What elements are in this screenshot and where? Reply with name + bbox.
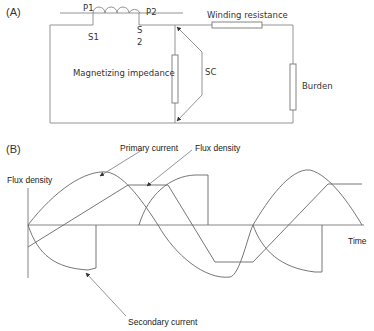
secondary-current-curve xyxy=(28,225,96,270)
sc-arrow-bottom-icon xyxy=(177,70,202,121)
sc-label: SC xyxy=(205,67,216,77)
flux-density-curve xyxy=(28,184,362,262)
winding-resistance-label: Winding resistance xyxy=(207,10,288,20)
secondary-current-leader-icon xyxy=(86,273,126,316)
burden-label: Burden xyxy=(302,81,333,91)
y-axis-label: Flux density xyxy=(7,175,53,185)
sc-arrow-top-icon xyxy=(177,27,202,70)
secondary-current-label: Secondary current xyxy=(128,317,198,327)
primary-coil-icon xyxy=(93,7,140,13)
burden-resistor-icon xyxy=(290,64,296,110)
x-axis-label: Time xyxy=(348,236,367,246)
panel-a-label: (A) xyxy=(6,6,21,18)
magnetizing-impedance-resistor-icon xyxy=(172,55,178,103)
terminal-s2-bottom: 2 xyxy=(137,37,142,47)
panel-a-circuit: (A) P1 P2 S1 S 2 Magnetizing impedance S… xyxy=(6,3,333,123)
primary-current-label: Primary current xyxy=(120,143,179,153)
terminal-p2: P2 xyxy=(146,7,157,17)
secondary-current-curve-3 xyxy=(253,225,322,272)
panel-b-label: (B) xyxy=(6,143,21,155)
flux-density-leader-icon xyxy=(147,150,192,186)
secondary-current-curve-2 xyxy=(139,175,208,225)
terminal-s2-top: S xyxy=(137,25,142,35)
winding-resistance-resistor-icon xyxy=(212,22,262,28)
terminal-s1: S1 xyxy=(88,32,99,42)
panel-b-waveforms: (B) Flux density Time Primary current Fl… xyxy=(6,143,367,327)
magnetizing-impedance-label: Magnetizing impedance xyxy=(73,68,175,78)
primary-current-leader-icon xyxy=(100,150,142,176)
primary-current-curve xyxy=(28,170,362,277)
ct-saturation-figure: (A) P1 P2 S1 S 2 Magnetizing impedance S… xyxy=(0,0,374,331)
flux-density-label: Flux density xyxy=(195,143,241,153)
terminal-p1: P1 xyxy=(83,3,94,13)
